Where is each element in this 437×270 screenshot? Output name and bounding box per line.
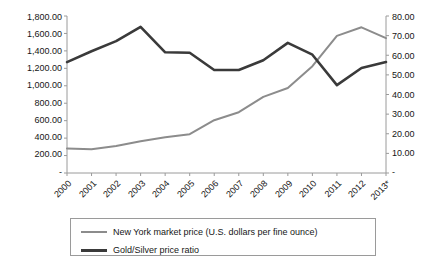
silver-price-chart: 1,800.00 1,600.00 1,400.00 1,200.00 1,00… <box>0 0 437 270</box>
legend-swatch-icon <box>81 231 107 233</box>
legend-swatch-icon <box>81 249 107 252</box>
series-line-new-york-market-price <box>67 27 386 149</box>
legend-label: New York market price (U.S. dollars per … <box>113 227 318 237</box>
chart-legend: New York market price (U.S. dollars per … <box>70 218 376 256</box>
legend-label: Gold/Silver price ratio <box>113 245 199 255</box>
legend-item-new-york-market-price: New York market price (U.S. dollars per … <box>71 223 375 241</box>
legend-item-gold-silver-ratio: Gold/Silver price ratio <box>71 241 375 259</box>
